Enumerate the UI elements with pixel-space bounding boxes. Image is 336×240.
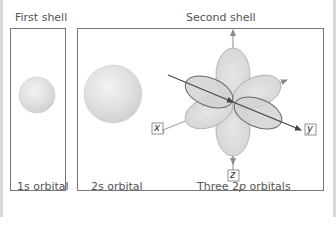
2p-label-suffix: orbitals [246, 180, 291, 193]
2p-label-italic: p [239, 180, 246, 193]
2s-orbital-sphere [84, 65, 142, 123]
y-axis-label: y [307, 123, 313, 134]
x-axis-label: x [154, 122, 160, 133]
1s-orbital-sphere [19, 77, 55, 113]
2p-orbitals-label: Three 2p orbitals [197, 180, 291, 193]
2p-orbitals [158, 30, 301, 170]
2s-orbital-label: 2s orbital [91, 180, 143, 193]
z-axis-label: z [230, 169, 235, 180]
2p-label-prefix: Three 2 [197, 180, 239, 193]
1s-orbital-label: 1s orbital [17, 180, 69, 193]
